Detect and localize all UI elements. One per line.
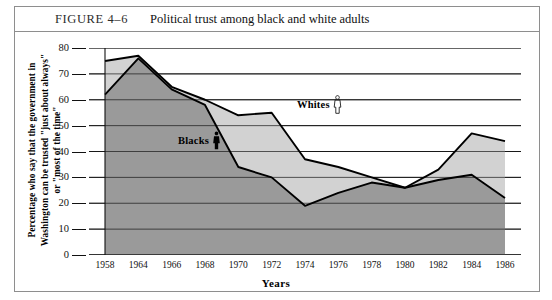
- y-tick-label: 60: [47, 95, 69, 106]
- x-tick-label: 1964: [121, 261, 155, 271]
- y-tick-mark: [72, 100, 86, 101]
- figure-number: FIGURE 4–6: [55, 12, 128, 27]
- x-tick-label: 1974: [288, 261, 322, 271]
- y-tick-mark: [72, 152, 86, 153]
- person-solid-icon: [212, 131, 221, 150]
- series-label-whites-text: Whites: [297, 99, 330, 110]
- series-label-whites: Whites: [297, 95, 342, 114]
- y-tick-label: 40: [47, 147, 69, 158]
- y-tick-label: 10: [47, 224, 69, 235]
- y-tick-label: 70: [47, 69, 69, 80]
- x-tick-label: 1958: [88, 261, 122, 271]
- figure-root: FIGURE 4–6 Political trust among black a…: [0, 0, 552, 300]
- x-tick-label: 1986: [488, 261, 522, 271]
- x-tick-label: 1980: [388, 261, 422, 271]
- series-label-blacks: Blacks: [178, 131, 221, 150]
- x-tick-label: 1970: [221, 261, 255, 271]
- area-chart: [89, 48, 521, 255]
- y-tick-label: 30: [47, 172, 69, 183]
- figure-header: FIGURE 4–6 Political trust among black a…: [15, 7, 539, 32]
- y-tick-mark: [72, 177, 86, 178]
- y-tick-label: 50: [47, 121, 69, 132]
- x-tick-label: 1976: [321, 261, 355, 271]
- x-tick-label: 1972: [255, 261, 289, 271]
- series-label-blacks-text: Blacks: [178, 135, 209, 146]
- y-tick-mark: [72, 255, 86, 256]
- y-tick-label: 0: [47, 250, 69, 261]
- x-tick-label: 1966: [155, 261, 189, 271]
- x-tick-label: 1978: [355, 261, 389, 271]
- series-area-blacks: [105, 58, 505, 255]
- y-tick-label: 20: [47, 198, 69, 209]
- y-tick-mark: [72, 126, 86, 127]
- y-tick-mark: [72, 229, 86, 230]
- plot-area: [89, 48, 521, 255]
- y-tick-mark: [72, 48, 86, 49]
- figure-caption: Political trust among black and white ad…: [150, 12, 369, 27]
- y-axis-title-line-1: Percentage who say that the government i…: [27, 63, 37, 238]
- x-tick-label: 1984: [455, 261, 489, 271]
- x-axis-title: Years: [0, 277, 552, 289]
- x-tick-label: 1968: [188, 261, 222, 271]
- y-tick-label: 80: [47, 43, 69, 54]
- y-tick-mark: [72, 74, 86, 75]
- person-outline-icon: [333, 95, 342, 114]
- y-tick-mark: [72, 203, 86, 204]
- x-tick-label: 1982: [421, 261, 455, 271]
